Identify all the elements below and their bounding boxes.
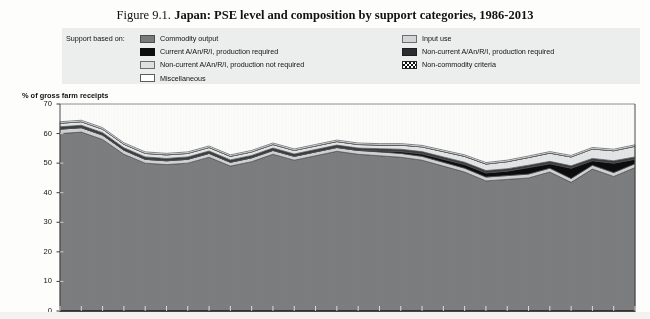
stacked-area-plot [0,0,650,319]
page-bottom-edge [0,312,650,319]
y-tick-label-70: 70 [26,99,52,108]
y-tick-label-50: 50 [26,158,52,167]
y-tick-label-20: 20 [26,247,52,256]
y-tick-label-30: 30 [26,217,52,226]
y-tick-label-10: 10 [26,276,52,285]
chart-area: 706050403020100 [0,0,650,319]
y-tick-label-40: 40 [26,188,52,197]
y-tick-label-60: 60 [26,129,52,138]
